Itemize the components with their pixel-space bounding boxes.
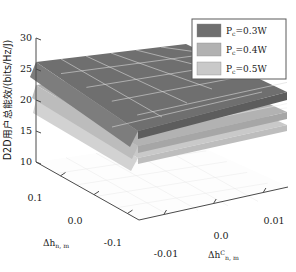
y-axis-title-base: Δh [208,250,220,260]
y-tick-neg-0-01: -0.01 [154,248,178,259]
z-tick-10: 10 [20,156,32,167]
x-axis-title-sub: n, m [55,242,69,249]
z-axis-title: D2D用户总能效/(bits/Hz/J) [2,40,13,161]
figure-canvas: 30 25 20 15 10 D2D用户总能效/(bits/Hz/J) 0.1 … [0,0,296,272]
z-tick-25: 25 [20,63,32,74]
x-tick-0-0: 0.0 [67,215,82,226]
legend[interactable]: Pc=0.3W Pc=0.4W Pc=0.5W [192,19,286,79]
y-axis-title-sub: n, m [225,254,239,261]
x-axis-title-base: Δh [43,238,55,248]
z-tick-30: 30 [20,32,32,43]
surface-plot-svg: 30 25 20 15 10 D2D用户总能效/(bits/Hz/J) 0.1 … [0,0,296,272]
z-tick-15: 15 [20,125,32,136]
y-tick-0-0: 0.0 [213,230,228,241]
y-tick-0-01: 0.01 [263,215,284,226]
x-tick-0-1: 0.1 [27,192,42,203]
legend-swatch-pc-0-4w[interactable] [197,43,221,56]
z-tick-20: 20 [20,94,32,105]
legend-swatch-pc-0-5w[interactable] [197,62,221,75]
x-tick-neg-0-1: -0.1 [104,237,122,248]
legend-swatch-pc-0-3w[interactable] [197,24,221,37]
